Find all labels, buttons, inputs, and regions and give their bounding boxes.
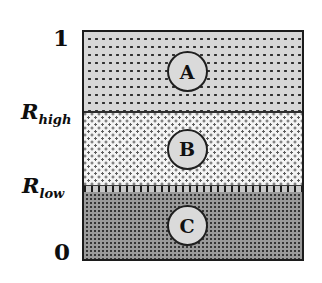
- band-b-label: B: [179, 138, 195, 160]
- threshold-line-r-low: [84, 185, 302, 192]
- band-c-marker: C: [167, 205, 208, 246]
- r-high-base: R: [21, 99, 38, 124]
- band-a-label: A: [180, 61, 195, 83]
- band-c: C: [84, 192, 302, 259]
- figure-canvas: 1 Rhigh Rlow 0 A B C: [0, 0, 322, 283]
- band-b: B: [84, 113, 302, 185]
- axis-label-r-high: Rhigh: [21, 101, 71, 122]
- band-a: A: [84, 32, 302, 111]
- axis-label-r-low: Rlow: [22, 175, 64, 196]
- band-stack: A B C: [82, 30, 304, 261]
- band-b-marker: B: [167, 129, 208, 170]
- r-high-subscript: high: [38, 112, 71, 127]
- r-low-base: R: [22, 173, 39, 198]
- band-a-marker: A: [167, 51, 208, 92]
- band-c-label: C: [179, 215, 194, 237]
- axis-tick-bottom: 0: [51, 240, 73, 263]
- r-low-subscript: low: [39, 186, 64, 201]
- axis-tick-top: 1: [50, 26, 72, 49]
